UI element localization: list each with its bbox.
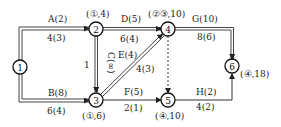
node-4-label: 4 bbox=[165, 25, 171, 35]
edge-b-cap: 6(4) bbox=[47, 106, 65, 116]
network-diagram: A(2) 4(3) B(8) 6(4) C(∞) 1 D(5) 6(4) E(4… bbox=[0, 0, 281, 127]
edge-a-cap: 4(3) bbox=[47, 33, 65, 43]
node-4-mark: (②③,10) bbox=[148, 9, 185, 19]
edge-a bbox=[19, 27, 89, 60]
node-6-label: 6 bbox=[229, 62, 235, 72]
edge-b-name: B(8) bbox=[48, 88, 67, 98]
node-5: 5 bbox=[161, 93, 175, 107]
node-1-label: 1 bbox=[17, 63, 23, 73]
edge-h-name: H(2) bbox=[196, 87, 217, 97]
node-5-label: 5 bbox=[165, 96, 171, 106]
edge-c bbox=[95, 36, 98, 92]
node-2-mark: (①,4) bbox=[86, 9, 110, 19]
node-2: 2 bbox=[89, 22, 103, 36]
edge-c-name: C(∞) bbox=[106, 52, 116, 73]
edge-d-cap: 6(4) bbox=[120, 34, 138, 44]
node-3-mark: (①,6) bbox=[82, 111, 106, 121]
edge-g-name: G(10) bbox=[192, 14, 218, 24]
node-5-mark: (④,10) bbox=[155, 111, 184, 121]
edge-d-name: D(5) bbox=[121, 14, 141, 24]
edge-e-name: E(4) bbox=[118, 50, 137, 60]
node-3-label: 3 bbox=[93, 96, 99, 106]
edge-c-side-mark: 1 bbox=[84, 60, 90, 70]
edge-a-name: A(2) bbox=[47, 14, 67, 24]
edge-h-cap: 4(2) bbox=[196, 102, 214, 112]
node-4: 4 bbox=[161, 22, 175, 36]
edge-f-cap: 2(1) bbox=[124, 103, 142, 113]
node-2-label: 2 bbox=[93, 25, 99, 35]
edge-g-cap: 8(6) bbox=[197, 32, 215, 42]
edge-d bbox=[103, 28, 161, 31]
edge-f-name: F(5) bbox=[124, 87, 143, 97]
node-6-mark: (④,18) bbox=[240, 69, 269, 79]
node-6: 6 bbox=[225, 59, 239, 73]
node-1: 1 bbox=[13, 60, 27, 74]
node-3: 3 bbox=[89, 93, 103, 107]
network-diagram-svg: A(2) 4(3) B(8) 6(4) C(∞) 1 D(5) 6(4) E(4… bbox=[0, 0, 281, 127]
edge-e-cap: 4(3) bbox=[136, 64, 154, 74]
